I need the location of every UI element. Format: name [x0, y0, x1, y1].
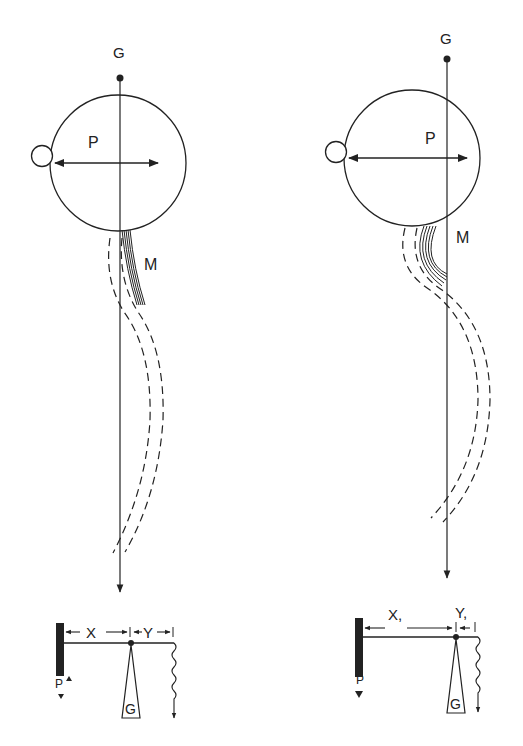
lever-fixed-bar — [56, 623, 64, 676]
muscle-spring-arrow — [172, 643, 176, 718]
diagram-canvas: G P M X — [0, 0, 523, 746]
lever-y-label: Y, — [455, 604, 467, 621]
spine-dashed-curves — [403, 228, 490, 522]
left-figure: G P M X — [32, 44, 187, 718]
p-arrowhead-bottom — [58, 694, 64, 699]
nose-circle — [32, 146, 53, 167]
right-lever-model: X, Y, G P — [355, 604, 480, 713]
nose-circle — [326, 142, 347, 163]
muscle-bundle — [122, 230, 145, 305]
lever-x-label: X, — [388, 606, 402, 623]
muscle-spring-arrow — [476, 637, 480, 712]
pivot-force-label: P — [425, 130, 436, 147]
left-lever-model: X Y G P — [55, 623, 176, 718]
muscle-bundle — [420, 226, 447, 286]
muscle-label: M — [144, 256, 157, 273]
p-arrowhead-top — [66, 676, 72, 681]
lever-g-label: G — [450, 696, 461, 712]
lever-y-label: Y — [143, 624, 153, 641]
lever-fixed-bar — [355, 618, 363, 677]
p-arrowhead-bottom — [355, 691, 363, 698]
lever-g-label: G — [125, 701, 136, 717]
gravity-label: G — [440, 30, 452, 47]
lever-p-label: P — [356, 673, 364, 687]
gravity-label: G — [113, 44, 125, 61]
right-figure: G P M X, Y, — [326, 30, 491, 713]
lever-p-label: P — [55, 677, 63, 691]
muscle-label: M — [456, 229, 469, 246]
lever-x-label: X — [86, 624, 96, 641]
pivot-force-label: P — [88, 134, 99, 151]
